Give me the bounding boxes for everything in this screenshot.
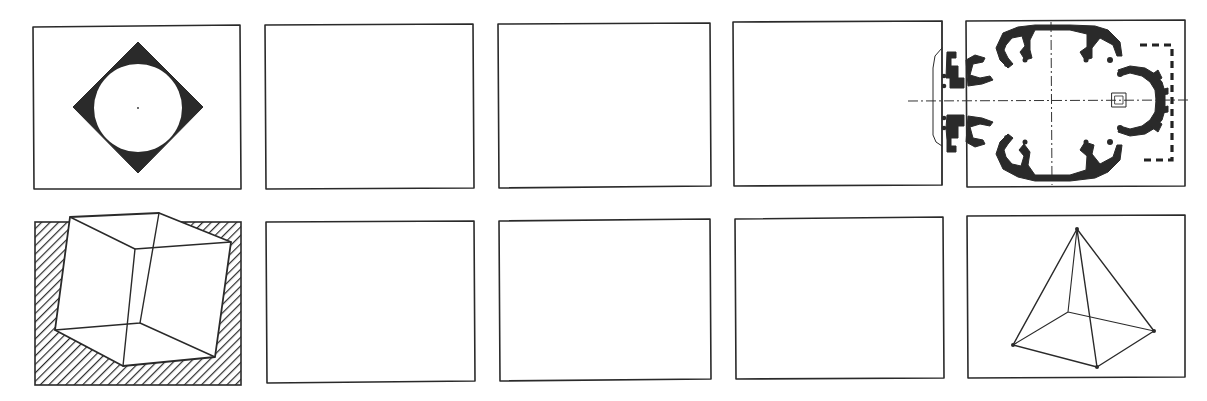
empty-panel (499, 219, 711, 381)
panel-diamond-circle (33, 25, 241, 189)
panel-pyramid (967, 215, 1185, 378)
plan-walls (966, 25, 1168, 181)
center-dot (137, 107, 139, 109)
pyramid-hidden-edges (1013, 229, 1154, 345)
vertical-axis (1051, 22, 1052, 185)
porch-outline (933, 48, 942, 146)
cube-silhouette (55, 213, 231, 366)
panel-cube (35, 213, 241, 385)
entrance-pier (946, 52, 964, 88)
empty-panel (265, 24, 474, 189)
horizontal-axis (908, 100, 1190, 101)
sketch-grid (0, 0, 1207, 401)
pyramid-outline (1013, 229, 1154, 367)
entrance-pier (946, 115, 964, 152)
empty-panel (733, 21, 942, 186)
empty-panel (498, 23, 711, 188)
empty-panel (735, 217, 944, 379)
empty-panel (266, 221, 475, 383)
panel-floor-plan (908, 20, 1190, 187)
